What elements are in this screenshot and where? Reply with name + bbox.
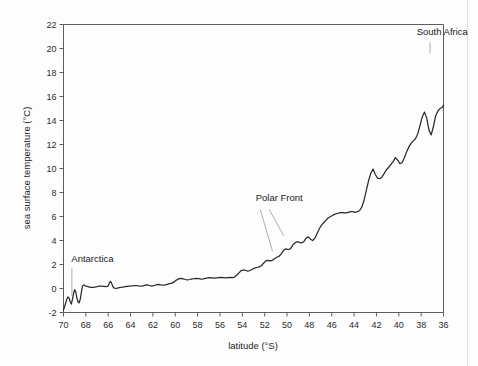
y-tick-label: 4 [51,236,56,246]
x-tick-label: 40 [394,320,404,330]
y-tick-label: 20 [46,44,56,54]
x-tick-label: 56 [215,320,225,330]
y-tick-label: 14 [46,116,56,126]
y-tick-label: 0 [51,284,56,294]
x-tick-label: 50 [282,320,292,330]
x-tick-label: 58 [193,320,203,330]
x-tick-label: 44 [349,320,359,330]
x-tick-label: 52 [260,320,270,330]
annotation-label-antarctica: Antarctica [71,253,114,264]
y-tick-label: 18 [46,68,56,78]
annotation-label-polar-front: Polar Front [256,192,303,203]
y-tick-label: 6 [51,212,56,222]
y-tick-label: 22 [46,20,56,30]
x-tick-label: 70 [58,320,68,330]
x-tick-label: 42 [371,320,381,330]
x-tick-label: 36 [438,320,448,330]
x-tick-label: 38 [416,320,426,330]
y-tick-label: 10 [46,164,56,174]
x-tick-label: 64 [126,320,136,330]
x-tick-label: 66 [103,320,113,330]
x-tick-label: 46 [327,320,337,330]
x-tick-label: 60 [170,320,180,330]
y-tick-label: 16 [46,92,56,102]
x-axis-title: latitude (°S) [228,340,278,351]
y-tick-label: 8 [51,188,56,198]
y-axis-title: sea surface temperature (°C) [21,107,32,230]
x-tick-label: 68 [81,320,91,330]
figure-container: 706866646260585654525048464442403836 -20… [0,0,478,366]
y-tick-label: 12 [46,140,56,150]
chart-background [0,0,478,366]
y-tick-label: -2 [48,308,56,318]
x-tick-label: 48 [304,320,314,330]
sea-surface-temperature-chart: 706866646260585654525048464442403836 -20… [0,0,478,366]
x-tick-label: 54 [237,320,247,330]
y-tick-label: 2 [51,260,56,270]
x-tick-label: 62 [148,320,158,330]
annotation-label-south-africa: South Africa [417,26,469,37]
